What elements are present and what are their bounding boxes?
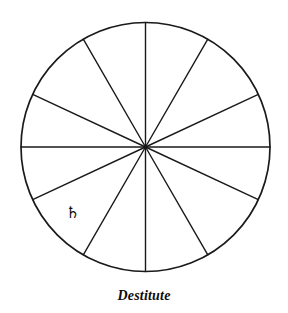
saturn-icon: ♄: [66, 203, 80, 222]
astrological-chart-figure: ♄ Destitute: [0, 0, 288, 313]
chart-wheel: ♄: [0, 0, 288, 313]
figure-caption: Destitute: [0, 288, 288, 304]
